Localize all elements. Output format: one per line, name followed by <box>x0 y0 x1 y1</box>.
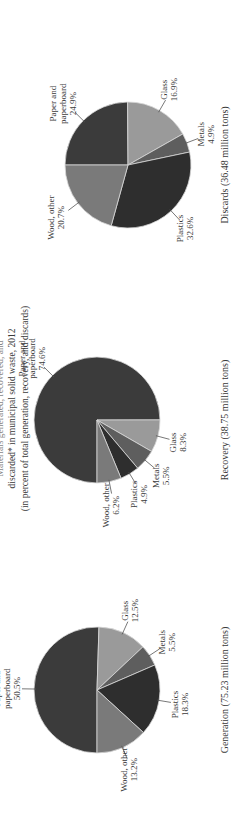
slice-label: Plastics4.9% <box>129 480 149 508</box>
slice-label: Paper andpaperboard74.6% <box>17 338 47 379</box>
slice-label: Wood, other6.2% <box>101 483 121 527</box>
pie-charts: Paper andpaperboard50.5%Glass12.5%Metals… <box>0 0 245 817</box>
slice-label: Glass12.5% <box>120 599 140 623</box>
pie-chart-2: Paper andpaperboard24.9%Glass16.9%Metals… <box>46 78 231 243</box>
slice-label: Plastics32.6% <box>175 214 195 242</box>
slice-label: Metals5.5% <box>157 629 177 654</box>
pie-caption: Recovery (38.75 million tons) <box>219 360 231 481</box>
pie-chart-1: Paper andpaperboard74.6%Glass8.3%Metals5… <box>17 338 231 528</box>
slice-label: Metals5.5% <box>151 463 171 488</box>
slice-label: Plastics18.3% <box>170 690 190 718</box>
slice-label: Wood, other13.2% <box>119 747 139 791</box>
leader-line <box>122 622 128 635</box>
pie-caption: Generation (75.23 million tons) <box>219 627 231 754</box>
chart-figure: Materials generated, recovered, and disc… <box>0 0 245 817</box>
pie-caption: Discards (36.48 million tons) <box>219 106 231 223</box>
slice-label: Glass8.3% <box>168 432 188 452</box>
slice-label: Metals4.9% <box>196 122 216 147</box>
pie-chart-0: Paper andpaperboard50.5%Glass12.5%Metals… <box>0 599 231 792</box>
pie-slice-paper-and-paperboard <box>34 627 99 753</box>
leader-line <box>68 202 79 210</box>
slice-label: Paper andpaperboard24.9% <box>48 83 78 124</box>
slice-label: Wood, other20.7% <box>46 196 66 240</box>
slice-label: Glass16.9% <box>159 78 179 102</box>
leader-line <box>159 100 166 112</box>
slice-label: Paper andpaperboard50.5% <box>0 668 22 709</box>
